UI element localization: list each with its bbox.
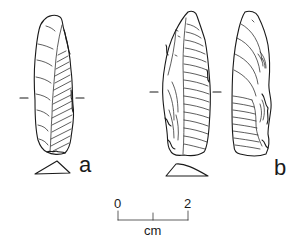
label-a: a [79, 152, 92, 177]
artifact-a-drawing [34, 15, 73, 154]
label-b: b [274, 155, 286, 180]
artifact-b-dorsal-drawing [163, 11, 211, 155]
scale-end-label: 2 [184, 196, 191, 211]
scale-start-label: 0 [114, 196, 121, 211]
scale-bar: 0 2 cm [114, 196, 191, 238]
figure-canvas: a b 0 2 cm [0, 0, 300, 248]
artifact-b-ventral-drawing [232, 11, 271, 156]
cross-section-b [166, 164, 208, 176]
scale-unit-label: cm [144, 223, 161, 238]
cross-section-a [35, 161, 70, 174]
